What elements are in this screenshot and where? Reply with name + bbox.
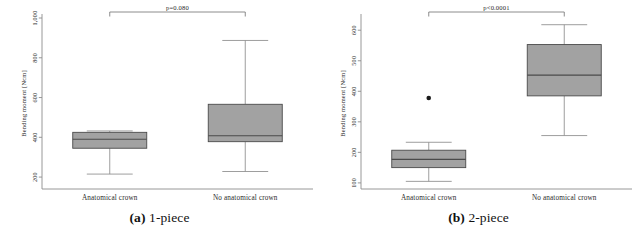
boxplot-box [208,40,282,171]
x-category-label: Anatomical crown [82,194,138,202]
x-category-label: No anatomical crown [532,194,597,202]
y-tick-label: 400 [350,86,357,96]
y-tick-label: 200 [350,147,357,157]
panel-b-chart-svg: 100200300400500600Bending moment [Ncm]An… [319,0,638,210]
y-tick-label: 1,000 [31,11,38,26]
significance-bracket [429,12,565,17]
boxplot-box [527,25,601,136]
y-tick-label: 500 [350,56,357,66]
y-tick-label: 300 [350,117,357,127]
p-value-label: p<0.0001 [483,4,509,11]
panel-b-2-piece: 100200300400500600Bending moment [Ncm]An… [319,0,638,245]
x-category-label: No anatomical crown [213,194,278,202]
significance-bracket [110,12,246,17]
y-tick-label: 200 [31,172,38,182]
panel-a-chart-svg: 2004006008001,000Bending moment [Ncm]Ana… [0,0,319,210]
panel-a-1-piece: 2004006008001,000Bending moment [Ncm]Ana… [0,0,319,245]
x-category-label: Anatomical crown [401,194,457,202]
boxplot-figure: 2004006008001,000Bending moment [Ncm]Ana… [0,0,638,245]
panel-b-caption-text: 2-piece [468,210,508,225]
panel-a-caption: (a) 1-piece [0,210,319,226]
panel-b-caption-label: (b) [448,210,465,225]
y-tick-label: 400 [31,132,38,142]
p-value-label: p=0.080 [166,4,189,11]
y-axis-title: Bending moment [Ncm] [20,70,27,136]
panel-a-caption-text: 1-piece [149,210,189,225]
boxplot-box [392,96,466,182]
y-tick-label: 100 [350,178,357,188]
boxplot-box [73,131,147,174]
y-tick-label: 600 [31,93,38,103]
y-tick-label: 800 [31,53,38,63]
panel-a-plot-area: 2004006008001,000Bending moment [Ncm]Ana… [0,0,319,210]
panel-a-caption-label: (a) [130,210,146,225]
y-tick-label: 600 [350,25,357,35]
panel-b-plot-area: 100200300400500600Bending moment [Ncm]An… [319,0,638,210]
outlier-point [426,96,431,101]
y-axis-title: Bending moment [Ncm] [339,70,346,136]
panel-b-caption: (b) 2-piece [319,210,638,226]
